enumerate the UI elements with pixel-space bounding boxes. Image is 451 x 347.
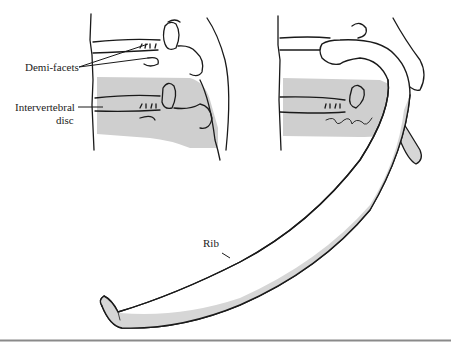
label-rib: Rib [203,237,219,249]
label-intervertebral: Intervertebral [15,101,75,113]
label-demi-facets: Demi-facets [25,61,79,73]
left-vertebrae [90,14,229,160]
vertebra-rib-illustration [0,0,451,347]
label-disc: disc [56,114,74,126]
leader-lines [78,44,230,258]
